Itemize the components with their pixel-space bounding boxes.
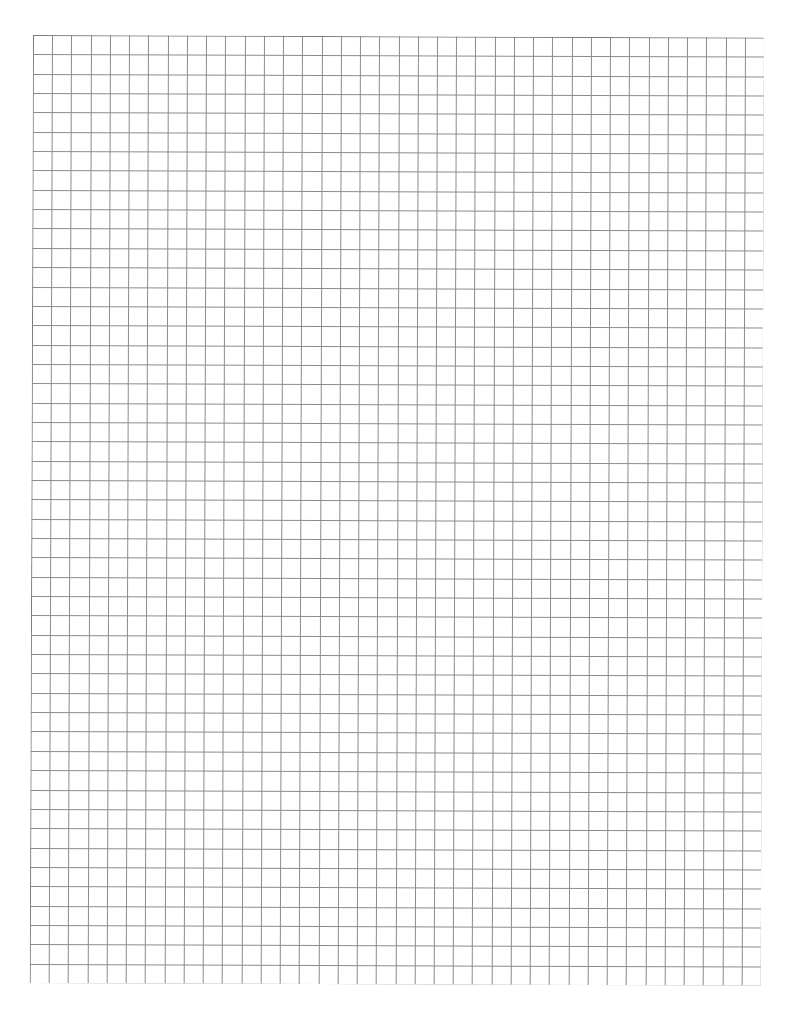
graph-paper-grid	[30, 35, 764, 986]
page	[0, 0, 792, 1024]
